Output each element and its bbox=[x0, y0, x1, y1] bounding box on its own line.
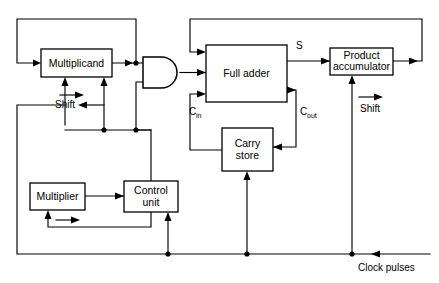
arrow-shift-direction-accumulator bbox=[374, 94, 383, 101]
block-layer: Multiplicand Full adder Product accumula… bbox=[30, 45, 393, 212]
arrow-multiplicand-input bbox=[33, 60, 41, 67]
junction-clock-carrystore bbox=[244, 251, 249, 256]
label-clock-pulses: Clock pulses bbox=[358, 262, 415, 273]
arrow-shift-label-pointer bbox=[78, 102, 87, 109]
arrow-multiplicand-clock-in bbox=[101, 77, 108, 86]
block-multiplicand-label: Multiplicand bbox=[49, 57, 105, 69]
multiplier-block-diagram: Multiplicand Full adder Product accumula… bbox=[0, 0, 439, 283]
and-gate[interactable] bbox=[143, 57, 177, 88]
block-control-unit-label-line2: unit bbox=[143, 196, 160, 208]
arrow-control-input bbox=[115, 193, 124, 200]
arrow-shift-direction-multiplier bbox=[71, 217, 80, 224]
label-carry-out: C out bbox=[300, 106, 317, 119]
block-multiplicand[interactable]: Multiplicand bbox=[41, 49, 112, 77]
label-shift-multiplicand: Shift bbox=[55, 99, 75, 110]
arrow-accumulator-input bbox=[321, 58, 330, 65]
and-gate-body bbox=[143, 57, 177, 88]
wire-left-bus bbox=[17, 105, 352, 254]
arrow-accumulator-feedback-out bbox=[409, 58, 418, 65]
label-shift-accumulator: Shift bbox=[360, 103, 380, 114]
arrow-multiplier-shift-in bbox=[45, 210, 52, 219]
block-carry-store[interactable]: Carry store bbox=[222, 128, 273, 171]
arrow-carrystore-clock-in bbox=[244, 171, 251, 180]
block-multiplier-label: Multiplier bbox=[36, 190, 79, 202]
arrow-control-clock-in bbox=[165, 212, 172, 221]
block-full-adder-label: Full adder bbox=[223, 67, 270, 79]
block-carry-store-label-line2: store bbox=[236, 149, 260, 161]
block-product-accumulator[interactable]: Product accumulator bbox=[330, 48, 393, 75]
diagram-canvas: Multiplicand Full adder Product accumula… bbox=[0, 0, 439, 283]
junction-clock-control bbox=[165, 251, 170, 256]
arrow-cout-from-adder bbox=[287, 87, 296, 94]
label-carry-in: C in bbox=[189, 106, 202, 119]
arrow-multiplicand-shift-in bbox=[62, 77, 69, 86]
block-full-adder[interactable]: Full adder bbox=[206, 45, 287, 102]
wire-control-to-gate bbox=[136, 82, 151, 181]
arrow-carrystore-input-right bbox=[273, 144, 282, 151]
block-product-accumulator-label-line2: accumulator bbox=[333, 60, 391, 72]
block-carry-store-label-line1: Carry bbox=[235, 137, 261, 149]
arrow-adder-input-cin bbox=[197, 91, 206, 98]
block-control-unit-label-line1: Control bbox=[134, 184, 168, 196]
label-sum-output: S bbox=[296, 40, 303, 51]
junction-clock-main bbox=[349, 251, 354, 256]
arrow-accumulator-shift-in bbox=[349, 75, 356, 84]
label-carry-out-subscript: out bbox=[307, 112, 317, 119]
block-multiplier[interactable]: Multiplier bbox=[30, 183, 85, 210]
block-control-unit[interactable]: Control unit bbox=[124, 181, 178, 212]
arrow-shift-direction-multiplicand bbox=[75, 92, 84, 99]
arrow-gate-input-top bbox=[125, 60, 133, 67]
label-carry-in-subscript: in bbox=[196, 112, 202, 119]
arrow-adder-input-mid bbox=[197, 69, 206, 76]
arrow-clock-input bbox=[371, 251, 380, 258]
junction-multiplicand-out bbox=[133, 60, 138, 65]
arrow-adder-input-top bbox=[197, 49, 206, 56]
